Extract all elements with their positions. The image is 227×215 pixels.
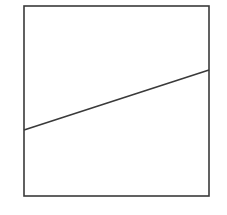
diagram-canvas (0, 0, 227, 215)
square-frame (24, 6, 209, 196)
sloped-line (24, 70, 209, 130)
diagram-figure (0, 0, 227, 215)
